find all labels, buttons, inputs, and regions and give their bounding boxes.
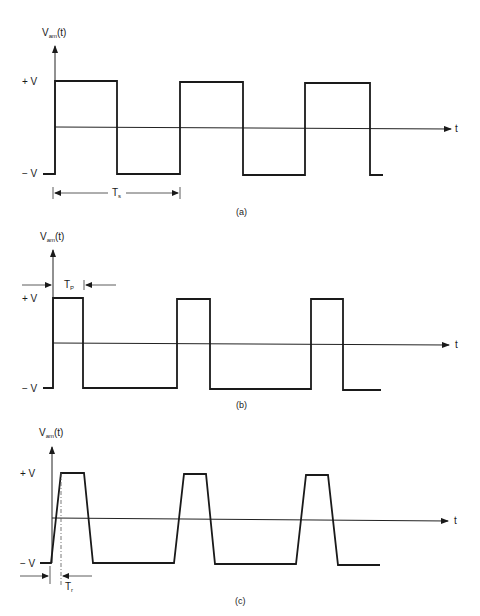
- time-axis: [55, 127, 451, 129]
- waveform-figure: Vam(t) t + V − V Ts (a) Vam(t) t + V − V…: [0, 0, 480, 616]
- plus-v-label: + V: [20, 468, 36, 479]
- caption-a: (a): [236, 207, 247, 217]
- arrowhead-icon: [172, 190, 179, 196]
- caption-b: (b): [236, 400, 247, 410]
- panel-c: Vam(t) t + V − V Tr (c): [20, 427, 457, 606]
- plus-v-label: + V: [22, 293, 38, 304]
- plus-v-label: + V: [22, 76, 38, 87]
- arrowhead-icon: [54, 190, 61, 196]
- arrowhead-icon: [45, 282, 52, 288]
- minus-v-label: − V: [20, 558, 36, 569]
- tp-label: TP: [64, 279, 74, 291]
- y-axis-label: Vam(t): [40, 231, 64, 243]
- arrowhead-icon: [62, 573, 69, 579]
- t-label: t: [454, 515, 457, 526]
- panel-a: Vam(t) t + V − V Ts (a): [22, 27, 458, 217]
- trapezoid-waveform: [40, 473, 380, 565]
- time-axis: [52, 518, 448, 521]
- minus-v-label: − V: [22, 383, 38, 394]
- arrowhead-icon: [42, 573, 49, 579]
- t-label: t: [455, 123, 458, 134]
- y-axis-label: Vam(t): [39, 427, 63, 439]
- minus-v-label: − V: [22, 168, 38, 179]
- caption-c: (c): [235, 596, 246, 606]
- arrowhead-icon: [85, 282, 92, 288]
- y-axis-label: Vam(t): [42, 27, 66, 39]
- t-label: t: [455, 339, 458, 350]
- ts-label: Ts: [112, 187, 121, 199]
- tr-label: Tr: [65, 581, 73, 593]
- panel-b: Vam(t) t + V − V TP (b): [22, 231, 458, 410]
- time-axis: [53, 343, 449, 345]
